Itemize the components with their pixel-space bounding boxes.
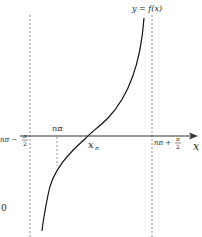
corner-label: 0 — [1, 203, 7, 213]
right-asymptote-label: nπ + π 2 — [154, 135, 181, 150]
curve-label: y = f(x) — [131, 4, 162, 13]
svg-text:x: x — [88, 139, 94, 150]
svg-text:2: 2 — [23, 140, 27, 147]
tangent-diagram: y = f(x) x nπ x n nπ − π 2 nπ + π 2 0 — [0, 0, 202, 237]
root-label: x n — [88, 139, 99, 151]
left-asymptote-label: nπ − π 2 — [0, 132, 28, 147]
svg-text:2: 2 — [176, 143, 180, 150]
center-label: nπ — [52, 124, 63, 133]
svg-text:n: n — [95, 144, 99, 151]
axis-label: x — [193, 140, 200, 153]
svg-text:nπ −: nπ − — [0, 136, 17, 144]
svg-text:nπ +: nπ + — [154, 139, 171, 147]
